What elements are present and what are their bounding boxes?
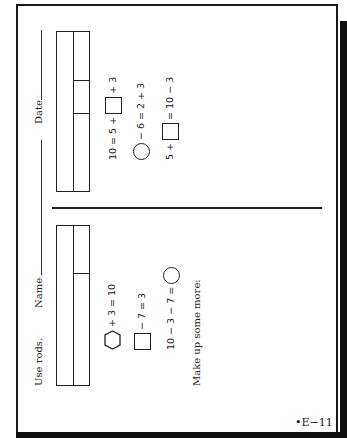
answer-box-square[interactable]	[134, 333, 151, 350]
answer-hexagon[interactable]	[104, 330, 121, 350]
make-up-more-prompt: Make up some more:	[191, 279, 202, 386]
problem-left-1: + 3 = 10	[104, 284, 121, 350]
answer-circle[interactable]	[133, 143, 150, 160]
page-shadow-bottom	[16, 432, 347, 438]
instruction-text: Use rods.	[33, 338, 44, 386]
section-divider	[52, 207, 322, 209]
date-underline	[41, 30, 42, 100]
name-underline-lower	[41, 220, 42, 275]
date-label: Date	[33, 100, 44, 124]
problem-left-2: − 7 = 3	[134, 293, 151, 350]
problem-right-3: 5 + = 10 − 3	[162, 77, 179, 160]
answer-circle[interactable]	[163, 267, 180, 284]
answer-box-square[interactable]	[105, 97, 122, 114]
rod-table-left-section	[56, 225, 90, 386]
name-label: Name	[33, 278, 44, 308]
page-number: •E−11	[295, 416, 333, 429]
problem-left-3: 10 − 3 − 7 =	[163, 267, 180, 350]
problem-right-2: − 6 = 2 + 3	[133, 83, 150, 160]
problem-right-1: 10 = 5 + + 3	[105, 77, 122, 160]
name-underline	[41, 140, 42, 220]
answer-box-square[interactable]	[162, 123, 179, 140]
page-shadow-right	[340, 21, 347, 438]
rod-table-right-section	[56, 31, 90, 192]
